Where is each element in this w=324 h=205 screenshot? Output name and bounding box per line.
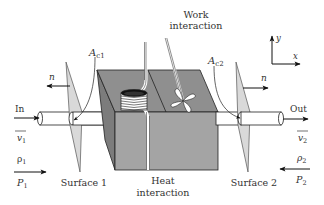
p1-label: P1 — [16, 177, 28, 190]
control-volume-diagram: Work interaction Heat interaction Ac1 Ac… — [0, 0, 324, 205]
heat-label: Heat — [151, 175, 175, 186]
in-label: In — [15, 104, 25, 114]
ac2-label: Ac2 — [207, 55, 224, 68]
box-front-face — [115, 112, 218, 170]
p2-label: P2 — [295, 174, 307, 187]
heat-label-2: interaction — [137, 187, 190, 198]
axis-x-label: x — [293, 51, 298, 61]
surface-1-label: Surface 1 — [61, 177, 107, 188]
rho1-label: ρ1 — [17, 154, 26, 166]
work-label: Work — [183, 9, 208, 20]
v1-label: v1 — [17, 133, 26, 145]
normal-label-left: n — [49, 72, 55, 82]
surface-2-label: Surface 2 — [231, 177, 277, 188]
axis-y-label: y — [275, 33, 281, 43]
work-label-2: interaction — [170, 20, 223, 31]
ac1-label: Ac1 — [88, 47, 105, 60]
v2-label: v2 — [298, 133, 307, 145]
outlet-pipe — [241, 112, 284, 125]
rho2-label: ρ2 — [296, 153, 306, 165]
out-label: Out — [290, 104, 307, 114]
box-top-face — [97, 70, 218, 112]
normal-label-right: n — [261, 73, 267, 83]
control-volume-box — [97, 70, 218, 170]
